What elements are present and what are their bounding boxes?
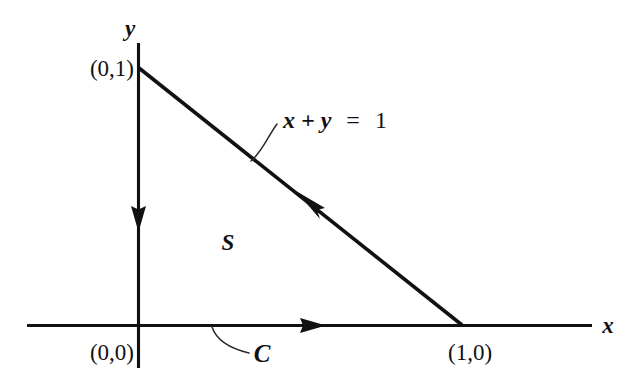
curve-label-c: C [254,340,271,367]
equation-lhs: x + y [282,107,332,133]
vertex-label-1-0: (1,0) [448,340,492,365]
equation-equals: = [346,107,360,133]
y-axis-label: y [122,16,136,41]
vertex-label-0-0: (0,0) [90,340,134,365]
equation-rhs: 1 [375,107,387,133]
vertex-label-0-1: (0,1) [90,56,134,81]
figure-canvas: y x (0,1) (0,0) (1,0) S C x + y = 1 [0,0,637,385]
x-axis-label: x [601,313,614,338]
region-label-s: S [222,230,235,255]
math-figure: y x (0,1) (0,0) (1,0) S C x + y = 1 [0,0,637,385]
